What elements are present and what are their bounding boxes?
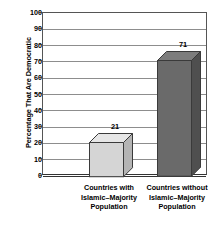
category-label-line: Islamic–Majority (127, 193, 219, 203)
bar-value-label-0: 21 (98, 122, 132, 131)
category-label-1: Countries withoutIslamic–MajorityPopulat… (127, 183, 219, 212)
gridline (43, 29, 206, 30)
category-label-line: Population (127, 202, 219, 212)
bar-0 (89, 133, 134, 178)
plot-area: 2171 (42, 12, 207, 175)
bar-chart: Percentage That Are Democratic 100908070… (0, 0, 219, 229)
category-label-line: Countries without (127, 183, 219, 193)
bar-1 (157, 51, 202, 178)
y-axis-ticks: 1009080706050403020100 (14, 12, 42, 175)
bar-value-label-1: 71 (166, 40, 200, 49)
